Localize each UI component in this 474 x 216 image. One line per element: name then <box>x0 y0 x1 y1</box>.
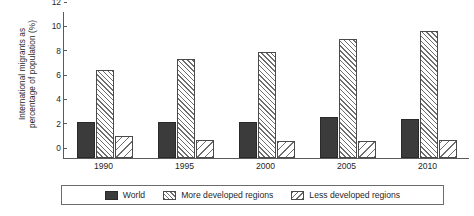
x-axis-label: 2000 <box>256 161 275 171</box>
legend-item-label: Less developed regions <box>309 190 400 200</box>
y-axis-tick: 10 <box>52 21 64 31</box>
legend-item-label: World <box>123 190 145 200</box>
y-axis-title-line-2: percentage of population (%) <box>28 20 39 128</box>
bar <box>320 117 338 158</box>
y-axis-tick-label: 4 <box>56 94 64 104</box>
legend-item[interactable]: Less developed regions <box>291 190 400 200</box>
bar <box>239 122 257 159</box>
y-axis-tick-label: 2 <box>56 119 64 129</box>
chart-legend: WorldMore developed regionsLess develope… <box>61 185 444 205</box>
bar <box>196 140 214 158</box>
y-axis-tick: 12 <box>52 0 64 7</box>
x-axis-label: 1990 <box>94 161 113 171</box>
bar <box>439 140 457 158</box>
y-axis-tick: 4 <box>56 94 64 104</box>
bar <box>401 119 419 158</box>
hatch-backward-swatch <box>291 191 304 200</box>
bar <box>358 141 376 158</box>
legend-item-label: More developed regions <box>181 190 273 200</box>
x-axis-labels: 19901995200020052010 <box>63 161 468 175</box>
bar <box>277 141 295 158</box>
bar-group <box>401 12 457 158</box>
bar <box>115 136 133 158</box>
bar-chart-figure: International migrants as percentage of … <box>0 0 474 216</box>
y-axis-tick-label: 6 <box>56 70 64 80</box>
bar-group <box>239 12 295 158</box>
legend-item[interactable]: World <box>105 190 145 200</box>
y-axis-tick: 8 <box>56 46 64 56</box>
bar <box>96 70 114 158</box>
hatch-forward-swatch <box>163 191 176 200</box>
y-axis-title: International migrants as percentage of … <box>11 0 45 159</box>
bar <box>258 52 276 158</box>
y-axis-tick-label: 0 <box>56 143 64 153</box>
solid-dark-swatch <box>105 191 118 200</box>
y-axis-tick: 2 <box>56 119 64 129</box>
x-axis-label: 2010 <box>418 161 437 171</box>
bar-group <box>158 12 214 158</box>
y-axis-tick-label: 10 <box>52 21 64 31</box>
plot-area: 024681012 <box>63 12 469 159</box>
bar <box>158 122 176 159</box>
bar-group <box>320 12 376 158</box>
bar-group <box>77 12 133 158</box>
bar-groups <box>64 12 469 158</box>
y-axis-tick-mark <box>64 2 67 3</box>
bar <box>420 31 438 158</box>
y-axis-title-line-1: International migrants as <box>18 28 29 120</box>
bar <box>339 39 357 158</box>
y-axis-tick-label: 8 <box>56 46 64 56</box>
y-axis-tick-label: 12 <box>52 0 64 7</box>
bar <box>177 59 195 158</box>
legend-item[interactable]: More developed regions <box>163 190 273 200</box>
x-axis-label: 2005 <box>337 161 356 171</box>
y-axis-tick: 6 <box>56 70 64 80</box>
y-axis-tick: 0 <box>56 143 64 153</box>
bar <box>77 122 95 159</box>
x-axis-label: 1995 <box>175 161 194 171</box>
